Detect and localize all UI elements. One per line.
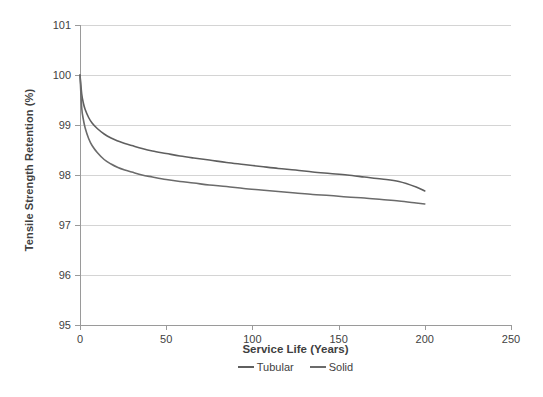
series-line-solid (80, 75, 425, 204)
chart-container: Tensile Strength Retention (%) 959697989… (0, 0, 543, 397)
legend-item-solid[interactable]: Solid (310, 361, 353, 373)
y-axis-title: Tensile Strength Retention (%) (18, 0, 40, 340)
series-lines (80, 25, 511, 325)
y-tick-label: 100 (53, 69, 71, 81)
x-axis-title: Service Life (Years) (80, 343, 511, 355)
y-tick-label: 97 (59, 219, 71, 231)
plot-area: 9596979899100101 050100150200250 (80, 25, 511, 325)
x-tick-mark (511, 325, 512, 330)
y-tick-label: 95 (59, 319, 71, 331)
legend-line-icon (238, 366, 254, 368)
legend-label: Solid (329, 361, 353, 373)
legend-line-icon (310, 366, 326, 368)
y-tick-label: 98 (59, 169, 71, 181)
x-axis-line (80, 325, 511, 326)
legend-label: Tubular (257, 361, 294, 373)
chart-legend: TubularSolid (80, 361, 511, 373)
y-tick-label: 96 (59, 269, 71, 281)
y-tick-label: 99 (59, 119, 71, 131)
legend-item-tubular[interactable]: Tubular (238, 361, 294, 373)
y-axis-title-text: Tensile Strength Retention (%) (23, 89, 35, 251)
y-tick-label: 101 (53, 19, 71, 31)
series-line-tubular (80, 75, 425, 191)
